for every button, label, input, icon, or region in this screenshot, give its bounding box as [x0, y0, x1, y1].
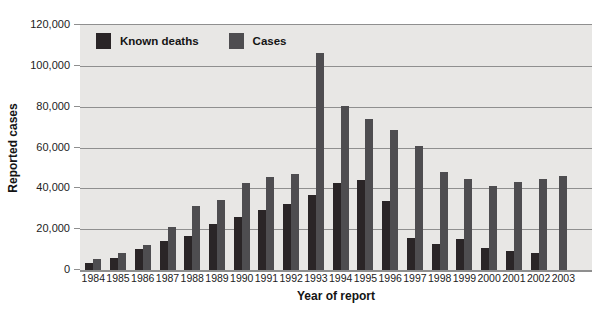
- bar-cases-1992: [291, 174, 299, 270]
- bar-group-1998: [427, 25, 452, 270]
- bar-cases-1989: [217, 200, 225, 270]
- bar-group-2002: [526, 25, 551, 270]
- bar-group-1995: [353, 25, 378, 270]
- bar-known-deaths-1989: [209, 224, 217, 270]
- bar-group-1986: [130, 25, 155, 270]
- bar-known-deaths-1987: [160, 241, 168, 270]
- bar-group-1997: [403, 25, 428, 270]
- y-tick-label: 20,000: [10, 222, 70, 234]
- y-tick-mark: [74, 228, 80, 229]
- bar-cases-1987: [168, 227, 176, 270]
- bar-known-deaths-1988: [184, 236, 192, 270]
- bar-known-deaths-2000: [481, 248, 489, 271]
- bar-group-1993: [304, 25, 329, 270]
- bar-group-2000: [477, 25, 502, 270]
- y-tick-mark: [74, 24, 80, 25]
- y-tick-mark: [74, 187, 80, 188]
- bar-cases-2003: [559, 176, 567, 270]
- bar-group-1988: [180, 25, 205, 270]
- y-tick-label: 120,000: [10, 18, 70, 30]
- y-tick-mark: [74, 106, 80, 107]
- bar-group-1985: [106, 25, 131, 270]
- bar-cases-1991: [266, 177, 274, 270]
- x-axis-title: Year of report: [80, 289, 592, 303]
- bar-group-1984: [81, 25, 106, 270]
- bar-known-deaths-2002: [531, 253, 539, 270]
- bar-group-2003: [551, 25, 576, 270]
- bar-known-deaths-1991: [258, 210, 266, 270]
- bar-cases-1998: [440, 172, 448, 270]
- bar-known-deaths-1986: [135, 249, 143, 270]
- bar-known-deaths-1997: [407, 238, 415, 270]
- bar-cases-1999: [464, 179, 472, 270]
- bar-known-deaths-1990: [234, 217, 242, 270]
- bar-cases-1988: [192, 206, 200, 270]
- bar-cases-1995: [365, 119, 373, 270]
- bar-known-deaths-1995: [357, 180, 365, 270]
- bar-cases-1984: [93, 259, 101, 270]
- bar-cases-1990: [242, 183, 250, 270]
- bar-group-1996: [378, 25, 403, 270]
- bar-known-deaths-1999: [456, 239, 464, 270]
- bar-group-1990: [229, 25, 254, 270]
- bar-cases-1997: [415, 146, 423, 271]
- bar-cases-1996: [390, 130, 398, 270]
- x-tick-label: 2003: [546, 272, 580, 284]
- bar-known-deaths-1994: [333, 183, 341, 270]
- y-tick-label: 40,000: [10, 181, 70, 193]
- bar-known-deaths-1996: [382, 201, 390, 270]
- bar-known-deaths-1984: [85, 263, 93, 270]
- bar-group-1999: [452, 25, 477, 270]
- y-tick-label: 80,000: [10, 100, 70, 112]
- bar-known-deaths-1992: [283, 204, 291, 270]
- bar-known-deaths-1993: [308, 195, 316, 271]
- bar-cases-2001: [514, 182, 522, 270]
- bar-cases-2002: [539, 179, 547, 270]
- bar-known-deaths-1998: [432, 244, 440, 271]
- chart-root: Reported cases Known deaths Cases 020,00…: [0, 0, 595, 312]
- bar-cases-1986: [143, 245, 151, 271]
- y-tick-label: 60,000: [10, 141, 70, 153]
- bar-cases-2000: [489, 186, 497, 270]
- y-tick-label: 100,000: [10, 59, 70, 71]
- y-tick-mark: [74, 269, 80, 270]
- bar-known-deaths-2001: [506, 251, 514, 270]
- plot-area: Known deaths Cases: [80, 24, 592, 272]
- bar-group-1994: [328, 25, 353, 270]
- y-tick-mark: [74, 147, 80, 148]
- bar-group-1989: [205, 25, 230, 270]
- bar-group-2001: [502, 25, 527, 270]
- bar-known-deaths-1985: [110, 258, 118, 270]
- bar-group-1987: [155, 25, 180, 270]
- y-tick-label: 0: [10, 263, 70, 275]
- bar-cases-1993: [316, 53, 324, 270]
- bar-cases-1985: [118, 253, 126, 270]
- y-tick-mark: [74, 65, 80, 66]
- bar-group-1992: [279, 25, 304, 270]
- bar-group-1991: [254, 25, 279, 270]
- bar-cases-1994: [341, 106, 349, 270]
